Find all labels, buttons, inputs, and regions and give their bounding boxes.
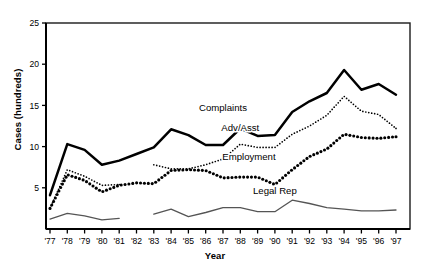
data-dot [234, 148, 236, 150]
data-dot [357, 107, 359, 109]
data-dot [230, 176, 233, 179]
x-tick-label: '90 [269, 236, 280, 246]
data-dot [105, 189, 108, 192]
data-dot [238, 176, 241, 179]
data-dot [320, 118, 322, 120]
data-dot [302, 128, 304, 130]
data-dot [360, 136, 363, 139]
data-dot [348, 100, 350, 102]
data-dot [203, 164, 205, 166]
data-dot [96, 182, 98, 184]
data-dot [302, 159, 305, 162]
data-dot [212, 172, 215, 175]
data-dot [312, 123, 314, 125]
data-dot [237, 146, 239, 148]
data-series-group [48, 70, 397, 220]
data-dot [143, 182, 146, 185]
data-dot [64, 176, 67, 179]
data-dot [94, 181, 96, 183]
data-dot [310, 124, 312, 126]
data-dot [261, 178, 264, 181]
data-dot [268, 147, 270, 149]
data-dot [91, 184, 94, 187]
data-dot [319, 150, 322, 153]
data-dot [82, 178, 85, 181]
series-label: Adv/Asst [221, 122, 259, 133]
y-tick-label: 20 [29, 59, 39, 69]
data-dot [63, 179, 66, 182]
y-tick-label: 15 [29, 101, 39, 111]
data-dot [335, 139, 338, 142]
data-dot [65, 172, 67, 174]
data-dot [338, 136, 341, 139]
data-dot [394, 135, 397, 138]
data-dot [160, 176, 163, 179]
data-dot [335, 104, 337, 106]
data-dot [242, 144, 244, 146]
y-tick-label: 10 [29, 142, 39, 152]
data-dot [88, 178, 90, 180]
data-dot [74, 176, 77, 179]
data-dot [78, 177, 81, 180]
x-tick-label: '91 [287, 236, 298, 246]
data-dot [200, 165, 202, 167]
data-dot [135, 181, 138, 184]
data-dot [72, 171, 74, 173]
x-tick-label: '85 [183, 236, 194, 246]
x-tick-label: '93 [321, 236, 332, 246]
data-dot [356, 135, 359, 138]
x-tick-label: '96 [373, 236, 384, 246]
data-dot [359, 109, 361, 111]
data-dot [86, 176, 88, 178]
data-dot [69, 170, 71, 172]
data-dot [102, 184, 104, 186]
data-dot [296, 164, 299, 167]
data-dot [147, 182, 150, 185]
data-dot [214, 161, 216, 163]
data-dot [168, 167, 170, 169]
data-dot [281, 176, 284, 179]
data-dot [66, 169, 68, 171]
data-dot [205, 169, 208, 172]
x-tick-label: '82 [131, 236, 142, 246]
data-dot [284, 174, 287, 177]
data-dot [375, 137, 378, 140]
data-dot [50, 203, 53, 206]
data-dot [268, 181, 271, 184]
data-dot [227, 176, 230, 179]
data-dot [379, 115, 381, 117]
data-dot [286, 137, 288, 139]
data-dot [127, 182, 130, 185]
data-dot [293, 166, 296, 169]
data-dot [371, 112, 373, 114]
x-tick-label: '86 [200, 236, 211, 246]
series-label: Employment [222, 151, 276, 162]
data-dot [331, 109, 333, 111]
data-dot [337, 102, 339, 104]
x-tick-label: '89 [252, 236, 263, 246]
data-dot [329, 144, 332, 147]
data-dot [343, 96, 345, 98]
data-dot [63, 177, 65, 179]
data-dot [154, 181, 157, 184]
data-dot [284, 139, 286, 141]
data-dot [374, 113, 376, 115]
data-dot [101, 190, 104, 193]
data-dot [85, 180, 88, 183]
data-dot [391, 124, 393, 126]
data-dot [80, 174, 82, 176]
x-tick-label: '95 [356, 236, 367, 246]
data-dot [247, 145, 249, 147]
y-tick-label: 5 [34, 183, 39, 193]
data-dot [131, 182, 134, 185]
data-dot [312, 153, 315, 156]
x-tick-label: '78 [62, 236, 73, 246]
x-tick-label: '77 [44, 236, 55, 246]
data-dot [341, 134, 344, 137]
data-dot [345, 133, 348, 136]
data-dot [278, 179, 281, 182]
data-dot [208, 171, 211, 174]
data-dot [329, 111, 331, 113]
data-dot [253, 146, 255, 148]
data-dot [287, 171, 290, 174]
